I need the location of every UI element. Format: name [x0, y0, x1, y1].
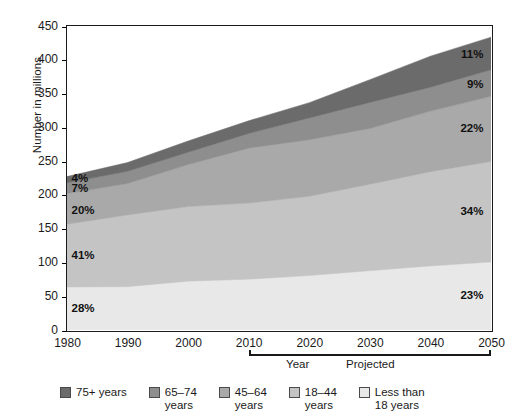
legend-item[interactable]: 65–74 years — [149, 386, 197, 412]
x-tick-label: 2010 — [227, 336, 271, 350]
x-tick-label: 2000 — [167, 336, 211, 350]
projected-bracket — [249, 354, 491, 356]
y-tick-label: 150 — [24, 221, 58, 235]
percent-label: 22% — [448, 122, 484, 134]
y-tick-label: 200 — [24, 187, 58, 201]
y-tick-label: 450 — [24, 19, 58, 33]
y-tick-label: 100 — [24, 255, 58, 269]
legend: 75+ years65–74 years45–64 years18–44 yea… — [60, 386, 510, 418]
y-tick-label: 0 — [24, 323, 58, 337]
percent-label: 34% — [448, 205, 484, 217]
percent-label: 7% — [72, 182, 89, 194]
x-tick-label: 1980 — [46, 336, 90, 350]
legend-swatch — [359, 387, 370, 398]
area-bands — [67, 26, 491, 330]
legend-item[interactable]: Less than 18 years — [359, 386, 425, 412]
legend-item-label: 18–44 years — [305, 386, 337, 412]
y-tick-label: 350 — [24, 86, 58, 100]
legend-swatch — [219, 387, 230, 398]
x-tick-label: 1990 — [106, 336, 150, 350]
x-tick-label: 2040 — [409, 336, 453, 350]
percent-label: 20% — [72, 204, 95, 216]
stacked-area-chart: d s - & Number in millions 0501001502002… — [0, 0, 514, 420]
x-tick-label: 2030 — [348, 336, 392, 350]
percent-label: 9% — [448, 78, 484, 90]
plot-area — [66, 25, 493, 332]
legend-swatch — [289, 387, 300, 398]
legend-item-label: 45–64 years — [235, 386, 267, 412]
legend-item-label: 75+ years — [76, 386, 127, 399]
y-tick-label: 300 — [24, 120, 58, 134]
y-axis-title: Number in millions — [31, 5, 49, 205]
projected-label: Projected — [249, 358, 491, 370]
percent-label: 28% — [72, 302, 95, 314]
percent-label: 11% — [448, 48, 484, 60]
y-tick-label: 400 — [24, 52, 58, 66]
legend-item[interactable]: 45–64 years — [219, 386, 267, 412]
legend-item-label: 65–74 years — [165, 386, 197, 412]
x-tick-label: 2050 — [470, 336, 514, 350]
legend-item[interactable]: 75+ years — [60, 386, 127, 399]
x-tick-label: 2020 — [288, 336, 332, 350]
percent-label: 41% — [72, 249, 95, 261]
y-tick-label: 50 — [24, 289, 58, 303]
y-tick-label: 250 — [24, 154, 58, 168]
source-note: d s - & — [0, 349, 4, 381]
percent-label: 23% — [448, 289, 484, 301]
legend-item-label: Less than 18 years — [375, 386, 425, 412]
legend-swatch — [149, 387, 160, 398]
legend-item[interactable]: 18–44 years — [289, 386, 337, 412]
legend-swatch — [60, 387, 71, 398]
